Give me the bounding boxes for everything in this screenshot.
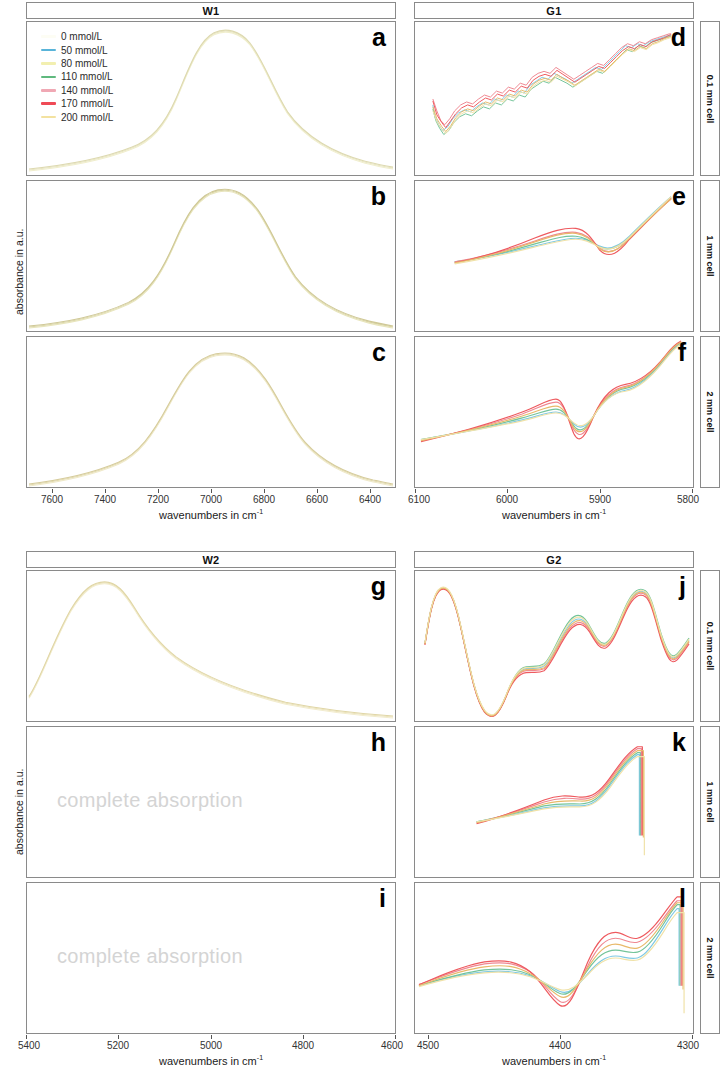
x-tick-w2-1 [118, 1035, 119, 1039]
legend-swatch-4 [41, 89, 56, 92]
x-axis-title-w2: wavenumbers in cm-1 [159, 1054, 263, 1067]
legend-swatch-2 [41, 62, 56, 65]
panel-f: f [414, 336, 694, 488]
cell-label-bottom-0.1mm: 0.1 mm cell [700, 570, 720, 722]
panel-k: k [414, 726, 694, 878]
panel-l-curves [415, 883, 693, 1033]
figure-canvas: absorbance in a.u. absorbance in a.u. W1… [0, 0, 723, 1075]
panel-c-plot [27, 337, 395, 487]
x-tick-w1-3 [211, 489, 212, 493]
panel-g-letter: g [371, 574, 386, 599]
legend-label-4: 140 mmol/L [61, 85, 113, 96]
panel-d-letter: d [671, 25, 686, 50]
x-tick-w2-4 [395, 1035, 396, 1039]
x-tick-label-g2-2: 4300 [677, 1040, 699, 1051]
panel-c: c [26, 336, 396, 488]
block-title-g1: G1 [414, 2, 694, 19]
block-title-g2: G2 [414, 551, 694, 568]
legend-item-2: 80 mmol/L [41, 57, 113, 70]
x-tick-label-g1-1: 6000 [496, 494, 518, 505]
panel-b-curves [27, 181, 395, 331]
x-axis-title-g1-text: wavenumbers in cm [502, 509, 600, 521]
cell-label-top-1mm: 1 mm cell [700, 180, 720, 332]
panel-j: j [414, 570, 694, 722]
x-tick-w2-0 [26, 1035, 27, 1039]
legend-label-5: 170 mmol/L [61, 98, 113, 109]
x-axis-title-g2: wavenumbers in cm-1 [502, 1054, 606, 1067]
panel-e-plot [415, 181, 693, 331]
legend-label-3: 110 mmol/L [61, 71, 113, 82]
x-tick-label-w1-3: 7000 [200, 494, 222, 505]
panel-i: complete absorption i [26, 882, 396, 1034]
x-tick-g1-1 [507, 489, 508, 493]
x-tick-g2-1 [560, 1035, 561, 1039]
legend-swatch-5 [41, 102, 56, 105]
x-tick-label-w2-2: 5000 [200, 1040, 222, 1051]
legend-swatch-6 [41, 116, 56, 119]
panel-f-curves [415, 337, 693, 487]
panel-g: g [26, 570, 396, 722]
legend-label-6: 200 mmol/L [61, 112, 113, 123]
legend-item-4: 140 mmol/L [41, 84, 113, 97]
block-title-w1-text: W1 [202, 5, 219, 17]
panel-b: b [26, 180, 396, 332]
legend-swatch-1 [41, 49, 56, 52]
legend-item-0: 0 mmol/L [41, 30, 113, 43]
cell-label-text-5: 2 mm cell [705, 937, 715, 978]
x-axis-title-g2-exp: -1 [600, 1054, 606, 1061]
panel-l-letter: l [679, 886, 686, 911]
legend-swatch-3 [41, 76, 56, 79]
x-tick-label-w1-2: 7200 [147, 494, 169, 505]
panel-k-plot [415, 727, 693, 877]
cell-label-text-4: 1 mm cell [705, 781, 715, 822]
panel-g-plot [27, 571, 395, 721]
cell-label-top-2mm: 2 mm cell [700, 336, 720, 488]
panel-k-curves [415, 727, 693, 877]
x-tick-g2-2 [692, 1035, 693, 1039]
panel-e-letter: e [672, 184, 686, 209]
x-axis-title-w2-text: wavenumbers in cm [159, 1055, 257, 1067]
panel-b-letter: b [371, 184, 386, 209]
cell-label-bottom-1mm: 1 mm cell [700, 726, 720, 878]
x-axis-title-g2-text: wavenumbers in cm [502, 1055, 600, 1067]
x-tick-label-w1-6: 6400 [359, 494, 381, 505]
panel-h: complete absorption h [26, 726, 396, 878]
cell-label-bottom-2mm: 2 mm cell [700, 882, 720, 1034]
y-axis-label-bottom: absorbance in a.u. [13, 769, 25, 855]
panel-h-letter: h [371, 730, 386, 755]
panel-e-curves [415, 181, 693, 331]
block-title-w1: W1 [26, 2, 396, 19]
cell-label-text-1: 1 mm cell [705, 235, 715, 276]
panel-i-letter: i [379, 886, 386, 911]
block-title-w2-text: W2 [202, 554, 219, 566]
legend-item-1: 50 mmol/L [41, 43, 113, 56]
x-tick-g1-3 [692, 489, 693, 493]
x-tick-w1-2 [158, 489, 159, 493]
panel-a-letter: a [372, 25, 386, 50]
panel-g-curves [27, 571, 395, 721]
y-axis-label-top: absorbance in a.u. [13, 229, 25, 315]
panel-l-plot [415, 883, 693, 1033]
panel-d-plot [415, 22, 693, 175]
panel-k-letter: k [672, 730, 686, 755]
panel-h-complete-absorption: complete absorption [57, 789, 243, 812]
panel-j-plot [415, 571, 693, 721]
block-title-g2-text: G2 [546, 554, 561, 566]
panel-d: d [414, 21, 694, 176]
panel-c-letter: c [372, 340, 386, 365]
concentration-legend: 0 mmol/L 50 mmol/L 80 mmol/L 110 mmol/L … [41, 30, 113, 124]
legend-label-1: 50 mmol/L [61, 45, 108, 56]
panel-i-complete-absorption: complete absorption [57, 945, 243, 968]
x-tick-w1-6 [370, 489, 371, 493]
x-tick-w1-4 [264, 489, 265, 493]
x-axis-title-w2-exp: -1 [257, 1054, 263, 1061]
x-axis-title-w1: wavenumbers in cm-1 [159, 508, 263, 521]
x-tick-g2-0 [428, 1035, 429, 1039]
panel-d-curves [415, 22, 693, 175]
panel-f-plot [415, 337, 693, 487]
x-tick-label-w2-4: 4600 [381, 1040, 403, 1051]
panel-l: l [414, 882, 694, 1034]
x-tick-g1-2 [600, 489, 601, 493]
cell-label-text-2: 2 mm cell [705, 391, 715, 432]
x-axis-title-w1-exp: -1 [257, 508, 263, 515]
